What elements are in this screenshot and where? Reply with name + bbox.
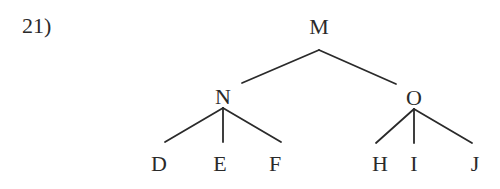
node-n: N: [208, 85, 238, 109]
node-j: J: [460, 152, 490, 176]
node-d: D: [144, 152, 174, 176]
node-i: I: [399, 152, 429, 176]
node-h: H: [365, 152, 395, 176]
edge-m-n: [242, 50, 319, 83]
edge-o-j: [414, 109, 472, 143]
edge-o-h: [376, 109, 414, 143]
node-m: M: [304, 15, 334, 39]
tree-diagram: 21) M N O D E F H I J: [0, 0, 500, 189]
node-o: O: [399, 86, 429, 110]
edge-n-f: [223, 108, 281, 142]
edge-n-d: [165, 108, 223, 142]
edge-m-o: [319, 50, 396, 84]
node-f: F: [260, 152, 290, 176]
node-e: E: [205, 152, 235, 176]
